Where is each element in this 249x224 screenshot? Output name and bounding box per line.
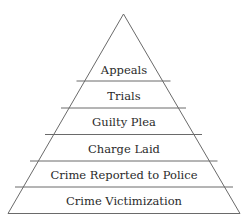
pyramid-diagram: Appeals Trials Guilty Plea Charge Laid C…: [0, 0, 249, 224]
level-crime-victimization: Crime Victimization: [66, 194, 183, 208]
level-appeals: Appeals: [100, 63, 147, 77]
level-trials: Trials: [107, 89, 140, 103]
pyramid-outline: [8, 14, 240, 214]
level-guilty-plea: Guilty Plea: [92, 115, 156, 129]
level-crime-reported: Crime Reported to Police: [50, 168, 197, 182]
level-charge-laid: Charge Laid: [88, 142, 161, 156]
